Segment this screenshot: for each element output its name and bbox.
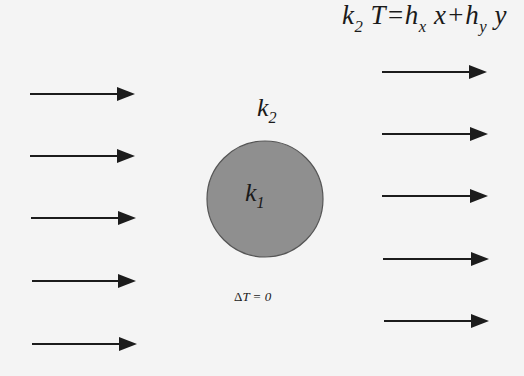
arrow-head-icon [117, 87, 135, 101]
boundary-condition-label: ΔT = 0 [234, 289, 271, 305]
k-symbol: k [245, 178, 257, 207]
matrix-conductivity-label: k2 [257, 93, 277, 127]
arrow-head-icon [118, 274, 136, 288]
arrow-head-icon [469, 65, 487, 79]
arrow-head-icon [471, 252, 489, 266]
far-field-equation: k2 T=hx x+hy y [342, 0, 507, 37]
subscript-1: 1 [257, 194, 265, 211]
incoming-flux-arrows [30, 87, 137, 351]
eq-y: y [487, 0, 507, 30]
arrow-head-icon [470, 189, 488, 203]
arrow-head-icon [118, 211, 136, 225]
arrow-head-icon [470, 127, 488, 141]
inclusion-conductivity-label: k1 [245, 178, 265, 212]
eq-x-plus-h: x+h [427, 0, 479, 30]
arrow-head-icon [119, 337, 137, 351]
arrow-head-icon [471, 314, 489, 328]
eq-hy-sub: y [479, 17, 487, 36]
inclusion-circle [207, 141, 323, 257]
eq-hx-sub: x [419, 17, 427, 36]
k-symbol: k [257, 93, 269, 122]
eq-k: k [342, 0, 354, 30]
arrow-head-icon [117, 149, 135, 163]
boundary-condition-text: T = 0 [242, 289, 271, 304]
eq-T-equals-h: T=h [363, 0, 419, 30]
outgoing-flux-arrows [382, 65, 489, 328]
subscript-2: 2 [269, 109, 277, 126]
